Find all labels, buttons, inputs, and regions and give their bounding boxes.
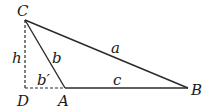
side-c-label: c	[113, 71, 122, 89]
vertex-a-label: A	[56, 92, 69, 110]
diagram-svg: C D A B a b c h b′	[0, 0, 213, 111]
vertex-d-label: D	[16, 92, 29, 110]
triangle-diagram: C D A B a b c h b′	[0, 0, 213, 111]
vertex-c-label: C	[17, 2, 29, 20]
side-b-label: b	[52, 49, 62, 67]
altitude-h-label: h	[12, 49, 22, 67]
projection-b-prime-label: b′	[37, 71, 51, 89]
side-a-label: a	[111, 39, 120, 57]
vertex-b-label: B	[190, 81, 202, 99]
